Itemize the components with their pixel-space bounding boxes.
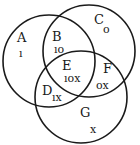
region-g: G x [80, 105, 97, 136]
region-e-letter: E [62, 58, 72, 73]
region-d-letter: D [42, 83, 52, 98]
region-b: B ıo [52, 29, 65, 56]
region-e-mark: ıox [64, 72, 81, 85]
region-g-mark: x [90, 123, 97, 136]
region-b-mark: ıo [54, 43, 65, 56]
region-f-letter: F [103, 61, 112, 76]
region-c-mark: o [103, 23, 110, 36]
region-f: F ox [96, 61, 112, 92]
region-d-mark: ıx [52, 91, 63, 104]
region-f-mark: ox [96, 79, 110, 92]
region-a-mark: ı [19, 47, 23, 60]
venn-diagram: A ı B ıo C o E ıox F ox D ıx G x [0, 0, 140, 145]
region-b-letter: B [52, 29, 62, 44]
region-g-letter: G [80, 105, 90, 120]
region-a: A ı [16, 30, 27, 60]
region-a-letter: A [16, 30, 27, 45]
region-e: E ıox [62, 58, 81, 85]
region-c: C o [94, 12, 110, 36]
